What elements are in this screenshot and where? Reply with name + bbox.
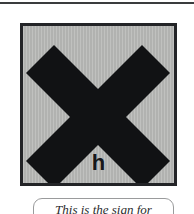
- hazard-letter: h: [23, 152, 174, 174]
- caption-bubble: This is the sign for: [33, 198, 174, 214]
- horizontal-rule: [0, 2, 194, 4]
- hazard-sign: h: [20, 23, 177, 186]
- page-fragment: h This is the sign for: [0, 0, 194, 214]
- caption-label: This is the sign for: [34, 202, 173, 214]
